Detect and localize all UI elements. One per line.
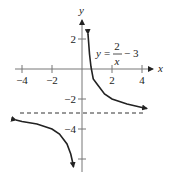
svg-text:2: 2 [114,40,120,52]
y-tick-label: −2 [64,93,76,105]
svg-text:=: = [104,47,110,59]
svg-text:y: y [95,47,101,59]
svg-text:− 3: − 3 [124,47,139,59]
x-tick-label: 4 [139,74,145,86]
equation-label: y = 2 x − 3 [95,40,139,67]
x-axis-label: x [157,62,163,74]
y-tick-label: 2 [71,33,77,45]
y-axis-label: y [78,4,84,16]
x-tick-label: −4 [16,74,28,86]
svg-text:x: x [114,55,120,67]
chart: −4 −2 2 4 2 −2 −4 x y y = 2 x − 3 [0,0,171,177]
y-tick-label: −4 [64,123,76,135]
x-tick-label: 2 [109,74,115,86]
x-tick-label: −2 [46,74,58,86]
